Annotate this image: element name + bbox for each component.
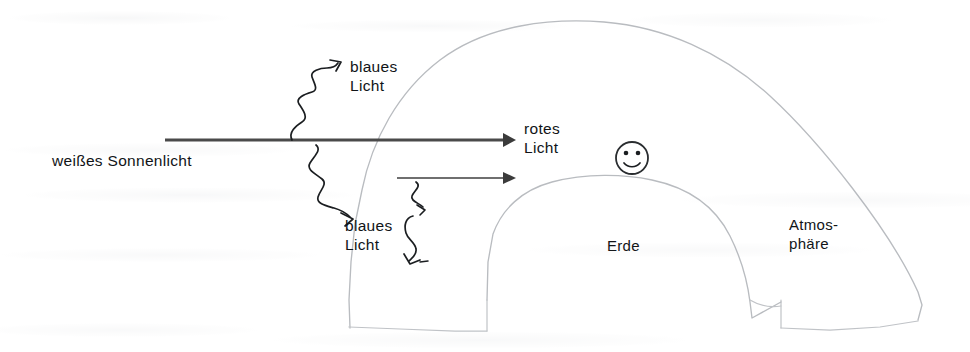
wavy-arrow-down-short-head	[417, 205, 425, 215]
white-sunlight-beam	[165, 133, 516, 147]
diagram-artwork	[0, 0, 970, 352]
label-white-sunlight: weißes Sonnenlicht	[52, 151, 192, 170]
wavy-arrow-down-right-icon	[309, 145, 353, 226]
label-blue-light-lower: blaues Licht	[345, 216, 392, 254]
smiley-face-eye-left	[624, 151, 629, 156]
diagram-canvas: weißes Sonnenlicht blaues Licht rotes Li…	[0, 0, 970, 352]
atmosphere-shape	[349, 21, 922, 331]
wavy-arrow-down-right-path	[309, 145, 350, 217]
earth-surface-arc-right-tail	[750, 300, 781, 307]
smiley-face-eye-right	[636, 151, 641, 156]
wavy-arrow-up-right-path	[291, 63, 338, 140]
wavy-arrow-down-long-tick	[420, 261, 428, 262]
smiley-face-head	[616, 142, 648, 174]
label-earth: Erde	[607, 237, 640, 256]
secondary-beam	[397, 172, 516, 184]
smiley-face-observer-icon	[616, 142, 648, 174]
label-red-light: rotes Licht	[524, 119, 560, 157]
white-sunlight-beam-arrowhead	[503, 133, 516, 147]
wavy-arrow-up-right-icon	[291, 60, 341, 140]
wavy-arrow-down-long-icon	[404, 216, 428, 264]
label-atmosphere: Atmos- phäre	[789, 216, 838, 253]
wavy-arrow-down-short-path	[412, 182, 423, 207]
atmosphere-bottom-right-edge	[781, 321, 918, 330]
wavy-arrow-down-short-icon	[412, 182, 425, 215]
secondary-beam-arrowhead	[503, 172, 516, 184]
wavy-arrow-down-long-path	[405, 216, 416, 261]
label-blue-light-upper: blaues Licht	[350, 57, 397, 95]
atmosphere-bottom-left-edge	[349, 327, 487, 331]
